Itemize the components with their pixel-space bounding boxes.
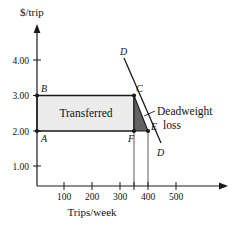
point-label-b: B (41, 83, 47, 94)
point-b-dot (35, 93, 39, 97)
y-tick-label-1: 1.00 (12, 162, 29, 172)
x-tick-label-300: 300 (113, 192, 128, 202)
y-tick-label-3: 3.00 (12, 91, 29, 101)
deadweight-loss-region (134, 96, 148, 132)
y-tick-label-2: 2.00 (12, 127, 29, 137)
x-axis-label: Trips/week (67, 206, 117, 218)
deadweight-annotation-line2: loss (163, 119, 181, 131)
y-axis-arrow (34, 24, 41, 33)
point-c-dot (132, 93, 136, 97)
chart-canvas: $/trip Trips/week 4.00 3.00 2.00 1.00 10… (0, 0, 236, 228)
x-tick-label-100: 100 (57, 192, 72, 202)
economics-deadweight-loss-chart: $/trip Trips/week 4.00 3.00 2.00 1.00 10… (0, 0, 236, 228)
deadweight-annotation-line1: Deadweight (157, 105, 213, 118)
point-label-f: F (127, 133, 135, 144)
point-label-c: C (136, 83, 143, 94)
x-axis-arrow (219, 183, 228, 190)
point-label-e: E (150, 121, 157, 132)
transferred-label: Transferred (59, 107, 112, 119)
point-e-dot (146, 129, 150, 133)
point-a-dot (35, 129, 39, 133)
x-tick-label-200: 200 (85, 192, 100, 202)
y-tick-label-4: 4.00 (12, 56, 29, 66)
point-label-a: A (40, 133, 48, 144)
demand-label-top: D (119, 46, 128, 57)
x-tick-label-500: 500 (169, 192, 184, 202)
x-tick-label-400: 400 (141, 192, 156, 202)
y-axis-label: $/trip (20, 6, 44, 18)
demand-label-bottom: D (156, 147, 165, 158)
